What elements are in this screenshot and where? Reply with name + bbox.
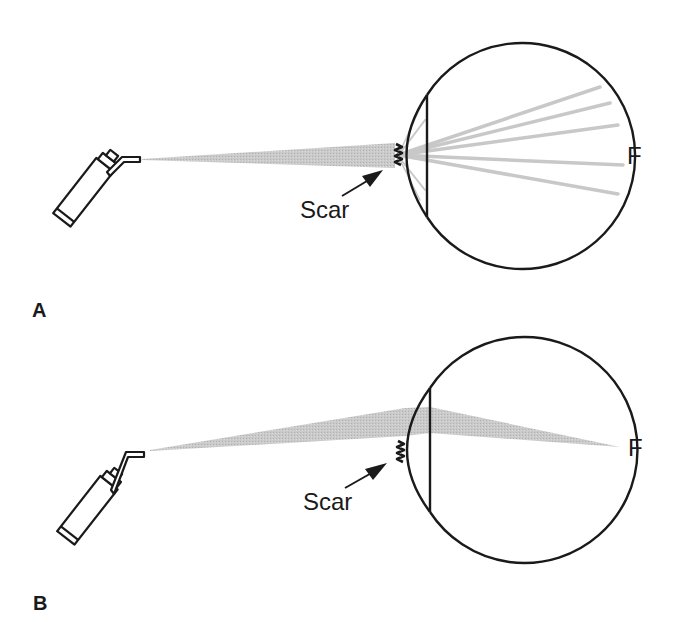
panel-b: Scar F B xyxy=(33,337,643,614)
laser-pen-icon xyxy=(53,146,140,227)
eye-cross-section-icon xyxy=(407,337,637,563)
panel-a: Scar F A xyxy=(32,43,642,321)
pointer-arrow-icon xyxy=(342,170,383,196)
pointer-arrow-icon xyxy=(345,463,387,488)
scattered-rays xyxy=(398,87,623,200)
laser-beam xyxy=(150,407,620,451)
scar-mark xyxy=(397,441,404,462)
panel-label: B xyxy=(33,592,47,614)
scar-label: Scar xyxy=(303,488,352,515)
scar-label: Scar xyxy=(300,196,349,223)
focus-label: F xyxy=(627,142,642,169)
laser-pen-icon xyxy=(57,452,144,545)
focus-label: F xyxy=(628,434,643,461)
laser-eye-diagram: Scar F A Scar xyxy=(0,0,686,630)
laser-beam-in xyxy=(142,143,395,168)
panel-label: A xyxy=(32,299,46,321)
